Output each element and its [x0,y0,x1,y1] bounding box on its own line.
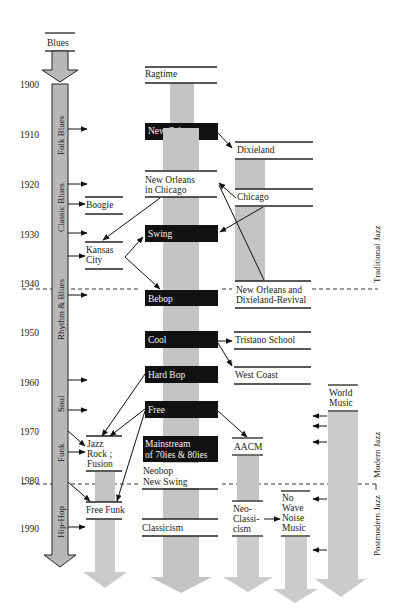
blues-column: Blues Folk Blues Classic Blues Rhythm & … [42,33,90,567]
style-dixieland: Dixieland [235,142,313,159]
svg-text:World: World [329,388,353,398]
style-free: Free [145,401,218,418]
style-boogie: Boogie [85,197,123,214]
svg-text:New Orleans and: New Orleans and [236,285,302,295]
svg-text:Swing: Swing [148,229,173,239]
svg-text:Dixieland-Revival: Dixieland-Revival [236,295,307,305]
era-label-modern: Modern Jazz [372,432,382,478]
svg-text:Kansas: Kansas [86,245,114,255]
svg-text:Free Funk: Free Funk [86,505,125,515]
svg-text:Free: Free [148,405,165,415]
style-hard-bop: Hard Bop [145,366,218,383]
style-cool: Cool [145,331,218,348]
svg-text:Cool: Cool [148,335,167,345]
svg-text:No: No [282,493,294,503]
style-world-music: World Music [328,385,358,411]
svg-text:Classi-: Classi- [233,514,259,524]
svg-text:Music: Music [329,398,353,408]
style-chicago: Chicago [235,189,313,206]
style-west-coast: West Coast [234,367,311,384]
svg-text:New Swing: New Swing [143,477,188,487]
year-label: 1900 [20,80,39,90]
style-new-orleans-dixieland-revival: New Orleans and Dixieland-Revival [235,281,311,308]
style-ragtime: Ragtime [145,67,217,83]
svg-text:Chicago: Chicago [237,192,269,202]
svg-text:Tristano School: Tristano School [235,335,295,345]
svg-text:Ragtime: Ragtime [145,69,177,79]
svg-text:cism: cism [233,524,252,534]
year-label: 1920 [20,180,39,190]
blues-segment-rhythm-blues: Rhythm & Blues [56,278,66,340]
svg-text:Jazz: Jazz [87,439,103,449]
svg-text:Neo-: Neo- [233,504,252,514]
year-label: 1930 [20,230,39,240]
year-label: 1910 [20,130,39,140]
svg-text:Boogie: Boogie [86,200,113,210]
svg-text:Rock ;: Rock ; [87,449,112,459]
svg-text:Music: Music [282,523,306,533]
style-kansas-city: Kansas City [85,242,123,269]
svg-text:Dixieland: Dixieland [237,145,275,155]
blues-segment-hip-hop: Hip-Hop [56,506,66,538]
svg-text:of 70ies & 80ies: of 70ies & 80ies [145,450,208,460]
svg-text:Classicism: Classicism [142,523,184,533]
blues-label: Blues [47,38,69,48]
style-neo-classicism: Neo- Classi- cism [232,501,263,536]
style-classicism: Classicism [142,519,220,536]
year-label: 1940 [20,279,39,289]
style-free-funk: Free Funk [86,502,125,519]
svg-text:Noise: Noise [282,513,304,523]
style-aacm: AACM [232,438,263,455]
era-label-postmodern: Postmodern Jazz [372,495,382,556]
blues-segment-classic-blues: Classic Blues [56,183,66,232]
style-bebop: Bebop [145,290,218,306]
svg-text:Wave: Wave [282,503,303,513]
year-label: 1950 [20,328,39,338]
svg-text:Neobop: Neobop [143,466,173,476]
blues-segment-soul: Soul [56,395,66,412]
blues-segment-funk: Funk [56,443,66,462]
jazz-timeline-diagram: 1900 1910 1920 1930 1940 1950 1960 1970 … [0,0,402,610]
style-swing: Swing [145,225,218,242]
svg-text:AACM: AACM [234,442,263,452]
svg-text:Mainstream: Mainstream [145,439,191,449]
year-label: 1990 [20,524,39,534]
svg-text:City: City [86,255,103,265]
svg-text:Bebop: Bebop [148,294,173,304]
svg-text:West Coast: West Coast [235,370,278,380]
style-no-wave-noise-music: No Wave Noise Music [281,491,310,536]
year-label: 1960 [20,378,39,388]
style-tristano-school: Tristano School [234,332,311,349]
year-label: 1970 [20,427,39,437]
year-label: 1980 [20,476,39,486]
style-jazz-rock-fusion: Jazz Rock ; Fusion [86,436,122,471]
style-neobop-new-swing: Neobop New Swing [142,463,220,489]
style-mainstream: Mainstream of 70ies & 80ies [143,436,218,462]
era-label-traditional: Traditional Jazz [372,226,382,283]
svg-text:Hard Bop: Hard Bop [148,370,185,380]
blues-segment-folk-blues: Folk Blues [56,115,66,155]
year-axis: 1900 1910 1920 1930 1940 1950 1960 1970 … [20,80,39,534]
svg-text:New Orleans: New Orleans [145,175,195,185]
svg-text:Fusion: Fusion [87,459,113,469]
svg-text:in Chicago: in Chicago [145,185,187,195]
